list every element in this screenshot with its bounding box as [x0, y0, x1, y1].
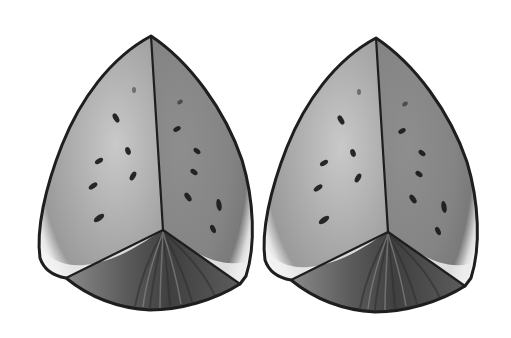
watermelon-wedge-right — [264, 38, 477, 312]
illustration-stage — [0, 0, 511, 338]
watermelon-illustration — [0, 0, 511, 338]
watermelon-wedge-left — [39, 36, 252, 310]
